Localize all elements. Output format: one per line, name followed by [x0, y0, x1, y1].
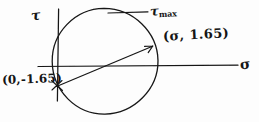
tau-max-base: τ [150, 3, 160, 18]
sigma-axis-label: σ [240, 57, 251, 72]
lower-point-label: (0,-1.65) [2, 72, 62, 86]
sigma-axis-line [38, 65, 238, 66]
tau-max-subscript: max [159, 8, 177, 19]
upper-point-label: (σ, 1.65) [163, 26, 230, 42]
tau-axis-label: τ [30, 8, 41, 23]
mohr-circle-figure: τ σ τmax (σ, 1.65) (0,-1.65) [0, 0, 259, 122]
mohr-circle [52, 8, 158, 114]
tau-max-label: τmax [150, 3, 177, 18]
taumax-leader-line [108, 12, 148, 13]
